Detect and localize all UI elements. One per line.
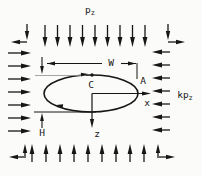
dimension-lines — [34, 63, 137, 112]
horizontal-stress-label: kpz — [177, 90, 193, 102]
top-stress-arrows — [43, 25, 148, 47]
sidewall-point-label: A — [140, 76, 146, 86]
height-dimension-label: H — [39, 128, 45, 138]
bottom-stress-arrows — [30, 144, 147, 162]
crown-point-label: C — [88, 80, 94, 90]
width-dimension-label: W — [108, 58, 114, 68]
diagram-canvas — [0, 0, 202, 176]
horizontal-stress-subscript: z — [189, 94, 193, 102]
horizontal-stress-symbol: kp — [177, 89, 188, 100]
right-stress-arrows — [152, 50, 170, 133]
x-axis-label: x — [144, 98, 150, 108]
crown-point-dot — [90, 73, 93, 76]
boundary-direction-arrowheads — [56, 73, 88, 108]
stress-field-diagram: pz kpz W H C A x z — [0, 0, 202, 176]
vertical-stress-label: pz — [85, 5, 95, 17]
z-axis-label: z — [94, 129, 100, 139]
left-stress-arrows — [8, 51, 31, 134]
axis-arrows — [90, 91, 151, 128]
vertical-stress-subscript: z — [91, 9, 95, 17]
dimension-arrows — [40, 57, 136, 128]
